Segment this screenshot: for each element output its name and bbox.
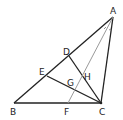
label-B: B: [10, 107, 16, 117]
segment-AF: [68, 17, 113, 103]
segment-EC: [47, 76, 101, 103]
segment-CA: [101, 17, 113, 103]
angle-mark-1: [104, 27, 106, 29]
point-C: [100, 102, 103, 105]
geometry-diagram: A B C D E F G H: [0, 0, 123, 120]
label-A: A: [110, 6, 117, 16]
segment-AB: [14, 17, 113, 103]
label-C: C: [99, 107, 105, 117]
label-F: F: [64, 107, 69, 117]
label-G: G: [67, 78, 74, 88]
label-H: H: [84, 72, 91, 82]
label-E: E: [39, 67, 45, 77]
label-D: D: [63, 47, 70, 57]
